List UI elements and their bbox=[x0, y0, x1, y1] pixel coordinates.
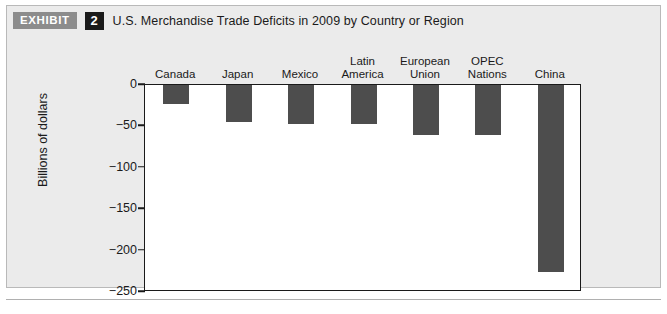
category-label-line: Nations bbox=[468, 68, 507, 81]
y-axis-tick-label: −250 bbox=[93, 284, 137, 298]
category-label-line: European bbox=[400, 55, 450, 68]
bar bbox=[413, 85, 439, 135]
plot-area bbox=[144, 84, 581, 291]
y-axis-tick-label: −50 bbox=[93, 118, 137, 132]
y-axis-title: Billions of dollars bbox=[36, 60, 50, 220]
y-axis-tick-label: 0 bbox=[93, 77, 137, 91]
category-label: LatinAmerica bbox=[341, 55, 383, 80]
category-label-line: Union bbox=[400, 68, 450, 81]
category-label-line: Latin bbox=[341, 55, 383, 68]
exhibit-number-badge: 2 bbox=[85, 12, 104, 30]
category-label: EuropeanUnion bbox=[400, 55, 450, 80]
y-axis-tick-label: −150 bbox=[93, 201, 137, 215]
bar bbox=[288, 85, 314, 124]
bar bbox=[351, 85, 377, 124]
category-label-line: Canada bbox=[155, 68, 195, 81]
category-label: Canada bbox=[155, 68, 195, 81]
category-label: OPECNations bbox=[468, 55, 507, 80]
bar bbox=[475, 85, 501, 135]
category-label-line: China bbox=[535, 68, 565, 81]
y-axis-tick-label: −100 bbox=[93, 160, 137, 174]
exhibit-header: EXHIBIT 2 U.S. Merchandise Trade Deficit… bbox=[7, 6, 660, 35]
bar bbox=[538, 85, 564, 272]
y-axis-tick-label: −200 bbox=[93, 243, 137, 257]
category-label: China bbox=[535, 68, 565, 81]
bar bbox=[226, 85, 252, 122]
y-axis-tick-labels: 0−50−100−150−200−250 bbox=[91, 35, 137, 288]
exhibit-label-badge: EXHIBIT bbox=[13, 12, 77, 29]
category-label: Mexico bbox=[282, 68, 318, 81]
bar bbox=[163, 85, 189, 104]
category-label-line: OPEC bbox=[468, 55, 507, 68]
exhibit-title: U.S. Merchandise Trade Deficits in 2009 … bbox=[113, 14, 464, 28]
chart-region: Billions of dollars 0−50−100−150−200−250… bbox=[7, 35, 660, 288]
exhibit-figure-box: EXHIBIT 2 U.S. Merchandise Trade Deficit… bbox=[6, 5, 661, 288]
category-label-line: Mexico bbox=[282, 68, 318, 81]
category-label-line: Japan bbox=[222, 68, 253, 81]
category-label-line: America bbox=[341, 68, 383, 81]
bottom-divider-rule bbox=[6, 299, 661, 300]
category-label: Japan bbox=[222, 68, 253, 81]
